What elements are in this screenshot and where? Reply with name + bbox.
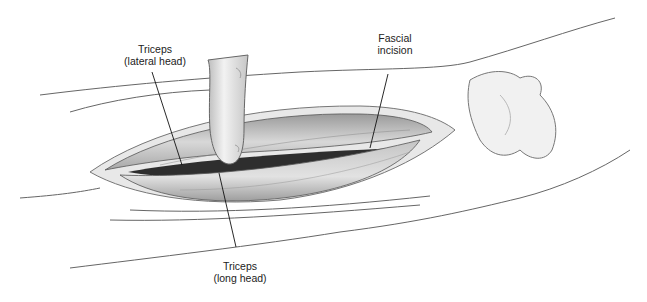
label-triceps-lateral-head: Triceps (lateral head) — [110, 43, 200, 67]
label-line2: (long head) — [200, 272, 280, 284]
label-line1: Triceps — [200, 260, 280, 272]
label-line2: incision — [360, 44, 430, 56]
label-line1: Triceps — [110, 43, 200, 55]
finger — [208, 55, 248, 164]
illustration — [0, 0, 647, 302]
label-triceps-long-head: Triceps (long head) — [200, 260, 280, 284]
label-fascial-incision: Fascial incision — [360, 32, 430, 56]
incision — [90, 106, 455, 202]
label-line1: Fascial — [360, 32, 430, 44]
label-line2: (lateral head) — [110, 55, 200, 67]
elbow — [468, 72, 556, 159]
